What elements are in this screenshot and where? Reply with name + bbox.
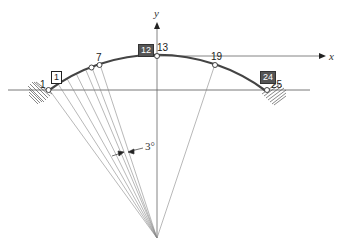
element-label-24: 24	[260, 71, 276, 84]
node-6	[89, 65, 94, 70]
node-25	[265, 88, 270, 93]
arch-diagram	[0, 0, 340, 248]
element-label-1: 1	[51, 71, 62, 84]
node-13	[155, 54, 160, 59]
node-7	[97, 63, 102, 68]
angle-label: 3°	[145, 141, 155, 152]
node-label-1: 1	[40, 80, 46, 90]
node-label-7: 7	[96, 53, 102, 63]
x-axis-arrow-icon	[319, 53, 326, 59]
node-1	[46, 88, 51, 93]
angle-indicator	[112, 148, 143, 156]
y-axis-label: y	[154, 8, 159, 19]
element-label-12: 12	[138, 44, 154, 57]
node-19	[213, 63, 218, 68]
y-axis-arrow-icon	[154, 22, 160, 29]
node-label-13: 13	[157, 43, 168, 53]
node-label-19: 19	[211, 52, 222, 62]
x-axis-label: x	[329, 51, 334, 62]
